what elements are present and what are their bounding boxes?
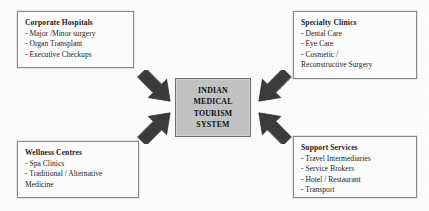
node-wellness-centres-item-2: - Traditional / Alternative	[25, 169, 138, 180]
node-wellness-centres-content: Wellness Centres - Spa Clinics - Traditi…	[18, 142, 138, 190]
hub-line-2: MEDICAL	[193, 96, 232, 107]
arrow-support-services-to-hub-icon	[251, 110, 295, 144]
node-specialty-clinics-item-4: Reconstructive Surgery	[301, 60, 416, 71]
node-corporate-hospitals-title: Corporate Hospitals	[25, 18, 133, 29]
node-corporate-hospitals-item-2: - Organ Transplant	[25, 39, 133, 50]
arrow-wellness-centres-to-hub-icon	[134, 110, 178, 144]
arrow-corporate-hospitals-to-hub-icon	[134, 70, 178, 104]
hub-line-1: INDIAN	[198, 85, 228, 96]
node-support-services-item-2: - Service Brokers	[301, 164, 416, 175]
node-support-services[interactable]: Support Services - Travel Intermediaries…	[293, 136, 417, 198]
node-corporate-hospitals-item-3: - Executive Checkups	[25, 50, 133, 61]
node-wellness-centres-item-1: - Spa Clinics	[25, 159, 138, 170]
hub-line-3: TOURISM	[194, 108, 233, 119]
node-specialty-clinics-content: Specialty Clinics - Dental Care - Eye Ca…	[294, 12, 416, 71]
node-support-services-item-4: - Transport	[301, 185, 416, 196]
arrow-specialty-clinics-to-hub-icon	[251, 70, 295, 104]
node-specialty-clinics-item-3: - Cosmetic /	[301, 50, 416, 61]
node-specialty-clinics-title: Specialty Clinics	[301, 18, 416, 29]
medical-tourism-diagram: Corporate Hospitals - Major /Minor surge…	[0, 0, 429, 211]
node-specialty-clinics[interactable]: Specialty Clinics - Dental Care - Eye Ca…	[293, 11, 417, 79]
node-specialty-clinics-item-1: - Dental Care	[301, 29, 416, 40]
node-corporate-hospitals[interactable]: Corporate Hospitals - Major /Minor surge…	[17, 11, 134, 68]
node-support-services-content: Support Services - Travel Intermediaries…	[294, 137, 416, 196]
node-support-services-title: Support Services	[301, 143, 416, 154]
hub-indian-medical-tourism-system[interactable]: INDIAN MEDICAL TOURISM SYSTEM	[175, 78, 251, 137]
hub-line-4: SYSTEM	[196, 119, 229, 130]
node-support-services-item-3: - Hotel / Restaurant	[301, 175, 416, 186]
node-corporate-hospitals-item-1: - Major /Minor surgery	[25, 29, 133, 40]
node-support-services-item-1: - Travel Intermediaries	[301, 154, 416, 165]
node-specialty-clinics-item-2: - Eye Care	[301, 39, 416, 50]
node-wellness-centres-title: Wellness Centres	[25, 148, 138, 159]
node-wellness-centres-item-3: Medicine	[25, 180, 138, 191]
node-corporate-hospitals-content: Corporate Hospitals - Major /Minor surge…	[18, 12, 133, 60]
node-wellness-centres[interactable]: Wellness Centres - Spa Clinics - Traditi…	[17, 141, 139, 198]
